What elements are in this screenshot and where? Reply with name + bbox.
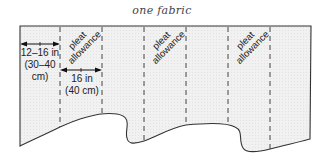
measurement-text: 12–16 in [20, 47, 60, 59]
side-measurement-arrow [20, 42, 60, 47]
pleat-width-arrow [60, 68, 102, 73]
diagram-title: one fabric [0, 4, 324, 17]
pleated-curtain-diagram: one fabric 12–16 in (30–40 cm) 16 in (40… [0, 0, 324, 158]
side-measurement-label: 12–16 in (30–40 cm) [20, 47, 60, 83]
measurement-text: (30–40 [20, 59, 60, 71]
measurement-text: cm) [20, 71, 60, 83]
pleat-width-label: 16 in (40 cm) [61, 73, 103, 97]
measurement-text: (40 cm) [61, 85, 103, 97]
measurement-text: 16 in [61, 73, 103, 85]
